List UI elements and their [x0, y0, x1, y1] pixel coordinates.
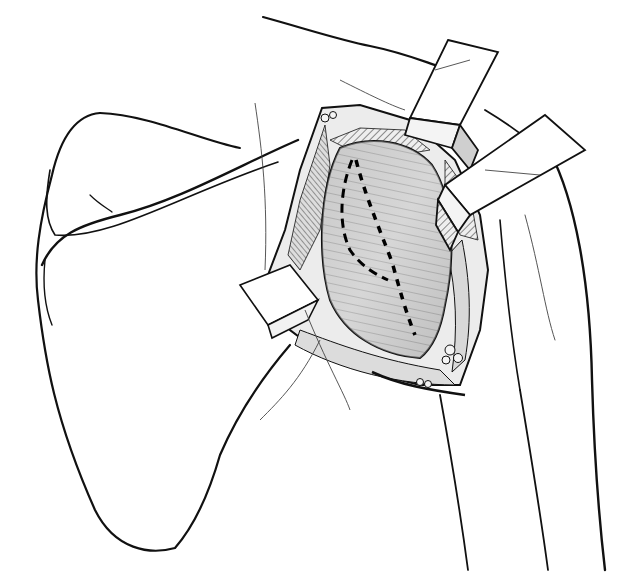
surgical-illustration: [0, 0, 630, 582]
illustration-canvas: [0, 0, 630, 582]
scapula-outline: [36, 113, 298, 551]
